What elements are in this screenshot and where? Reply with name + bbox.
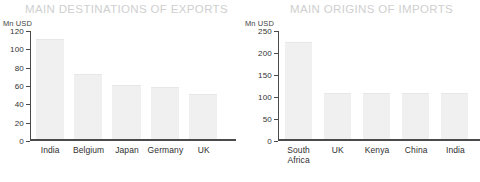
y-tick-label: 100 [258, 93, 272, 102]
y-tick-mark [274, 119, 278, 120]
y-tick-mark [26, 123, 30, 124]
bar-slot [69, 31, 107, 139]
bar[interactable] [74, 74, 102, 139]
bar[interactable] [363, 93, 390, 140]
bar[interactable] [324, 93, 351, 140]
bar-slot [107, 31, 145, 139]
y-tick-mark [26, 49, 30, 50]
bar[interactable] [36, 39, 64, 139]
x-axis-labels-imports: South AfricaUKKenyaChinaIndia [279, 145, 475, 165]
y-tick-label: 120 [10, 27, 24, 36]
bar[interactable] [441, 93, 468, 139]
x-axis-line-exports [30, 139, 236, 141]
bar-slot [146, 31, 184, 139]
y-tick-label: 0 [19, 137, 24, 146]
bar[interactable] [151, 87, 179, 139]
bar[interactable] [402, 93, 429, 139]
y-tick-label: 100 [10, 45, 24, 54]
x-axis-label: UK [185, 145, 223, 155]
plot-area-exports: 020406080100120 [30, 31, 222, 141]
bar[interactable] [285, 42, 312, 139]
plot-area-imports: 050100150200250 [278, 31, 474, 141]
chart-panel-exports: MAIN DESTINATIONS OF EXPORTS Mn USD 0204… [0, 0, 240, 182]
y-tick-label: 50 [263, 115, 272, 124]
y-tick-mark [26, 104, 30, 105]
bar-slot [396, 31, 435, 139]
y-tick-mark [26, 31, 30, 32]
y-tick-label: 80 [15, 63, 24, 72]
chart-panel-imports: MAIN ORIGINS OF IMPORTS Mn USD 050100150… [240, 0, 480, 182]
y-tick-label: 200 [258, 49, 272, 58]
bar-slot [31, 31, 69, 139]
y-tick-label: 150 [258, 71, 272, 80]
y-tick-mark [274, 97, 278, 98]
y-tick-mark [274, 31, 278, 32]
x-axis-label: Kenya [357, 145, 396, 165]
bar[interactable] [189, 94, 217, 139]
x-axis-label: South Africa [279, 145, 318, 165]
bar-group-imports [279, 31, 474, 139]
y-tick-mark [274, 53, 278, 54]
y-tick-mark [274, 75, 278, 76]
x-axis-label: India [436, 145, 475, 165]
x-axis-label: India [31, 145, 69, 155]
bar-group-exports [31, 31, 222, 139]
x-axis-labels-exports: IndiaBelgiumJapanGermanyUK [31, 145, 223, 155]
bar-slot [357, 31, 396, 139]
y-tick-mark [26, 86, 30, 87]
y-tick-mark [26, 68, 30, 69]
bar-slot [318, 31, 357, 139]
y-tick-label: 250 [258, 27, 272, 36]
bar[interactable] [112, 85, 140, 139]
y-tick-label: 0 [267, 137, 272, 146]
x-axis-label: UK [318, 145, 357, 165]
y-tick-mark [26, 141, 30, 142]
x-axis-label: China [397, 145, 436, 165]
chart-title-exports: MAIN DESTINATIONS OF EXPORTS [25, 3, 228, 15]
y-tick-label: 20 [15, 118, 24, 127]
x-axis-line-imports [278, 139, 480, 141]
y-tick-label: 60 [15, 82, 24, 91]
charts-page: MAIN DESTINATIONS OF EXPORTS Mn USD 0204… [0, 0, 480, 182]
y-tick-mark [274, 141, 278, 142]
bar-slot [184, 31, 222, 139]
bar-slot [435, 31, 474, 139]
x-axis-label: Japan [108, 145, 146, 155]
bar-slot [279, 31, 318, 139]
y-tick-label: 40 [15, 100, 24, 109]
x-axis-label: Belgium [69, 145, 107, 155]
chart-title-imports: MAIN ORIGINS OF IMPORTS [290, 3, 453, 15]
x-axis-label: Germany [146, 145, 184, 155]
